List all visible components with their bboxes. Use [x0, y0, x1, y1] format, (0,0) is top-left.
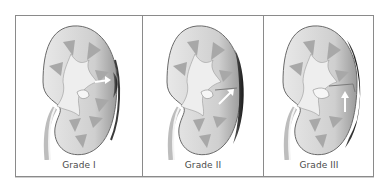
figure-frame: Grade I: [15, 15, 374, 177]
kidney-grade-1-icon: [33, 20, 125, 160]
kidney-illustration: [16, 20, 142, 160]
kidney-illustration: [143, 20, 263, 160]
panel-grade-3: Grade III: [264, 16, 374, 176]
panel-label: Grade II: [143, 160, 263, 170]
kidney-grade-2-icon: [157, 20, 249, 160]
panel-label: Grade I: [16, 160, 142, 170]
kidney-illustration: [264, 20, 374, 160]
kidney-grade-3-icon: [273, 20, 365, 160]
panel-label: Grade III: [264, 160, 374, 170]
panel-grade-1: Grade I: [16, 16, 142, 176]
panel-grade-2: Grade II: [143, 16, 263, 176]
